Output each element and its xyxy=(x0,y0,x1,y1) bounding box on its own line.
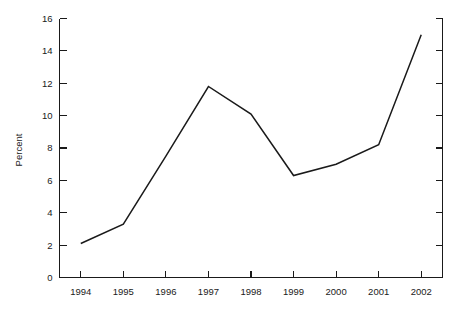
data-series-line xyxy=(81,35,421,244)
x-tick-label: 2000 xyxy=(326,286,347,297)
y-axis-tick-labels: 0246810121416 xyxy=(42,13,53,283)
x-tick-label: 2002 xyxy=(411,286,432,297)
x-tick-label: 1995 xyxy=(113,286,134,297)
x-axis-tick-labels: 199419951996199719981999200020012002 xyxy=(70,286,432,297)
y-tick-label: 0 xyxy=(47,272,52,283)
x-tick-label: 1998 xyxy=(240,286,261,297)
y-axis-title: Percent xyxy=(13,133,24,166)
axes-group xyxy=(60,19,443,278)
y-tick-label: 4 xyxy=(47,207,52,218)
x-tick-label: 1996 xyxy=(155,286,176,297)
y-tick-label: 12 xyxy=(42,78,53,89)
series-group xyxy=(81,35,421,244)
y-axis-left-ticks xyxy=(60,19,67,278)
y-tick-label: 2 xyxy=(47,240,52,251)
y-tick-label: 14 xyxy=(42,45,53,56)
x-axis-ticks xyxy=(81,271,421,278)
y-axis-right-ticks xyxy=(436,19,443,278)
y-tick-label: 16 xyxy=(42,13,53,24)
x-tick-label: 1994 xyxy=(70,286,91,297)
x-tick-label: 1997 xyxy=(198,286,219,297)
x-tick-label: 1999 xyxy=(283,286,304,297)
y-tick-label: 10 xyxy=(42,110,53,121)
x-tick-label: 2001 xyxy=(368,286,389,297)
line-chart-figure: 0246810121416 19941995199619971998199920… xyxy=(0,0,464,312)
y-tick-label: 6 xyxy=(47,175,52,186)
chart-canvas: 0246810121416 19941995199619971998199920… xyxy=(0,0,464,312)
y-tick-label: 8 xyxy=(47,142,52,153)
